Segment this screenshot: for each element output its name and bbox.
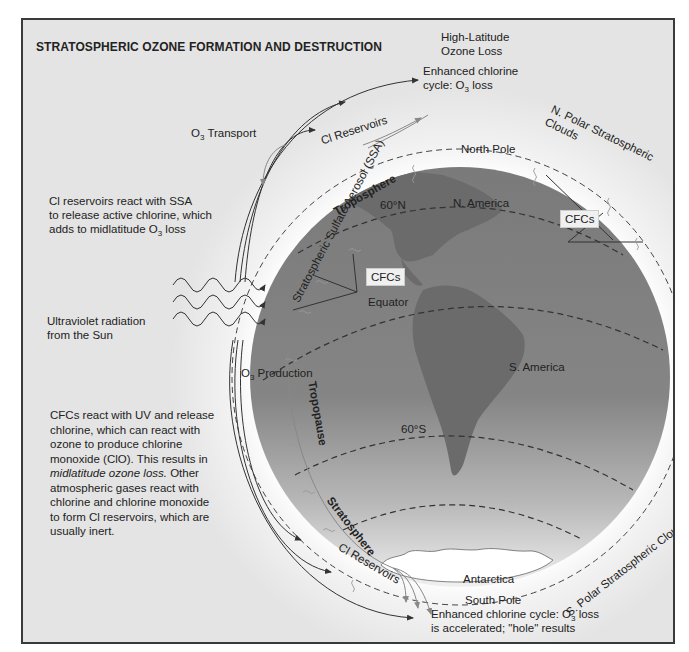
note-line: Cl reservoirs react with SSA [49,194,212,208]
cfcs-left-label: CFCs [366,268,405,286]
note-line: midlatitude ozone loss. Other [50,466,214,481]
text: O [241,367,250,379]
o3-production-label: O3 Production [241,366,313,380]
note-line: ozone to produce chlorine [50,437,214,452]
north-pole-label: North Pole [461,142,515,156]
south-america-label: S. America [509,360,565,374]
antarctica-label: Antarctica [463,572,514,586]
enhanced-top-line2: cycle: O3 loss [423,78,518,92]
enhanced-top-line1: Enhanced chlorine [423,64,518,78]
text: O [191,127,200,139]
text: cycle: O [423,79,465,91]
cfc-note: CFCs react with UV and release chlorine,… [50,408,214,539]
diagram-frame: STRATOSPHERIC OZONE FORMATION AND DESTRU… [21,18,675,644]
note-line: adds to midlatitude O3 loss [49,222,212,236]
text: Transport [204,127,256,139]
enhanced-chlorine-bottom-label: Enhanced chlorine cycle: O3 loss is acce… [431,607,599,635]
text: adds to midlatitude O [49,223,158,235]
south-pole-label: South Pole [465,593,521,607]
text: Enhanced chlorine cycle: O [431,608,571,620]
enhanced-chlorine-top-label: Enhanced chlorine cycle: O3 loss [423,64,518,92]
cl-ssa-note: Cl reservoirs react with SSA to release … [49,194,212,236]
high-latitude-label: High-Latitude Ozone Loss [441,30,509,58]
north-america-label: N. America [453,196,509,210]
italic-text: midlatitude ozone loss. [50,467,167,479]
note-line: monoxide (ClO). This results in [50,452,214,467]
uv-line2: from the Sun [47,328,145,342]
note-line: to form Cl reservoirs, which are [50,510,214,525]
enhanced-bottom-line1: Enhanced chlorine cycle: O3 loss [431,607,599,621]
uv-line1: Ultraviolet radiation [47,314,145,328]
equator-label: Equator [368,295,408,309]
text: loss [575,608,599,620]
uv-label: Ultraviolet radiation from the Sun [47,314,145,342]
text: Other [167,467,199,479]
high-latitude-line1: High-Latitude [441,30,509,44]
text: loss [469,79,493,91]
enhanced-bottom-line2: is accelerated; "hole" results [431,621,599,635]
note-line: CFCs react with UV and release [50,408,214,423]
o3-transport-label: O3 Transport [191,126,256,140]
text: loss [162,223,186,235]
text: Production [254,367,312,379]
high-latitude-line2: Ozone Loss [441,44,509,58]
latitude-60s-label: 60°S [401,422,426,436]
note-line: atmospheric gases react with [50,481,214,496]
diagram-title: STRATOSPHERIC OZONE FORMATION AND DESTRU… [36,40,382,54]
latitude-60n-label: 60°N [380,198,406,212]
note-line: chlorine, which can react with [50,423,214,438]
note-line: to release active chlorine, which [49,208,212,222]
cfcs-right-label: CFCs [560,210,599,228]
note-line: chlorine and chlorine monoxide [50,495,214,510]
note-line: usually inert. [50,524,214,539]
